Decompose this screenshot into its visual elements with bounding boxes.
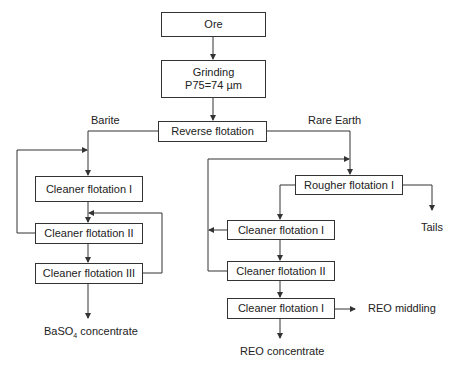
label-rare-earth: Rare Earth: [308, 114, 361, 126]
label-baso4-concentrate: BaSO4 concentrate: [44, 325, 138, 339]
label-reo-middling: REO middling: [368, 302, 436, 314]
node-grinding-label: Grinding: [193, 66, 235, 79]
node-ore-label: Ore: [204, 18, 222, 31]
node-grinding: Grinding P75=74 µm: [161, 60, 266, 98]
node-re-cleaner-3: Cleaner flotation I: [227, 298, 335, 319]
node-re-cleaner-1: Cleaner flotation I: [227, 220, 335, 240]
label-tails: Tails: [421, 221, 443, 233]
label-barite: Barite: [91, 114, 120, 126]
node-grinding-size: P75=74 µm: [185, 79, 242, 92]
node-re-cleaner-2: Cleaner flotation II: [227, 261, 335, 281]
node-rougher-flotation-label: Rougher flotation I: [304, 179, 394, 192]
node-barite-cleaner-1: Cleaner flotation I: [35, 176, 143, 202]
node-ore: Ore: [161, 12, 266, 37]
node-reverse-flotation-label: Reverse flotation: [171, 125, 254, 138]
node-rougher-flotation: Rougher flotation I: [295, 175, 403, 195]
node-barite-cleaner-2: Cleaner flotation II: [35, 223, 143, 244]
node-re-cleaner-3-label: Cleaner flotation I: [238, 302, 324, 315]
flowchart: Ore Grinding P75=74 µm Reverse flotation…: [0, 0, 456, 370]
node-re-cleaner-2-label: Cleaner flotation II: [236, 265, 325, 278]
label-reo-concentrate: REO concentrate: [240, 345, 324, 357]
node-barite-cleaner-3-label: Cleaner flotation III: [43, 267, 135, 280]
node-barite-cleaner-2-label: Cleaner flotation II: [44, 227, 133, 240]
node-re-cleaner-1-label: Cleaner flotation I: [238, 224, 324, 237]
node-barite-cleaner-1-label: Cleaner flotation I: [46, 183, 132, 196]
node-reverse-flotation: Reverse flotation: [158, 121, 267, 142]
node-barite-cleaner-3: Cleaner flotation III: [35, 263, 143, 284]
